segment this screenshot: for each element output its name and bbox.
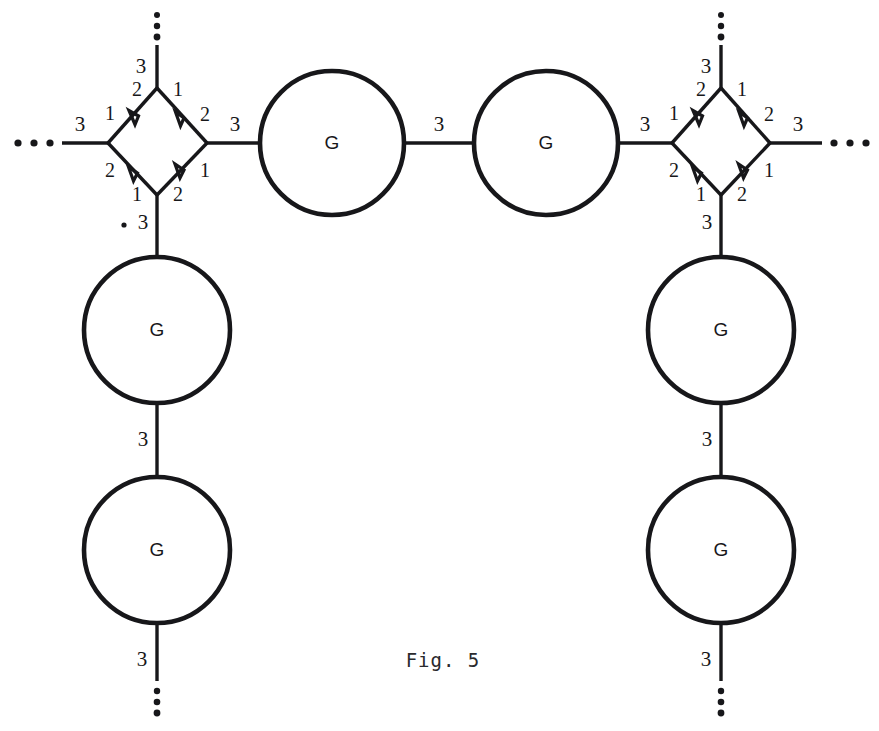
ellipsis-right	[830, 139, 869, 146]
diamond-right-arrow-sw	[693, 167, 702, 181]
circle-right-lower-label: G	[714, 539, 729, 560]
diamond-right-label-ne-east: 2	[764, 103, 774, 125]
figure-caption: Fig. 5	[406, 649, 481, 671]
edge-left-dia-up-label: 3	[136, 54, 147, 78]
diamond-right-label-se-south: 2	[737, 183, 747, 205]
ellipsis-top-left	[154, 12, 161, 40]
edge-right-dia-up-label: 3	[701, 54, 712, 78]
circle-left-lower: G	[84, 477, 230, 623]
ellipsis-bottom-right	[718, 688, 725, 717]
edge-top-mid-left-label: 3	[230, 112, 241, 136]
diamond-left-label-se-east: 1	[200, 159, 210, 181]
edge-far-right-label: 3	[793, 112, 804, 136]
circle-right-upper: G	[648, 257, 794, 403]
edge-right-dia-down-label: 3	[702, 210, 713, 234]
ellipsis-left	[14, 139, 53, 146]
diamond-left-label-ne-east: 2	[200, 103, 210, 125]
edge-top-mid-right-label: 3	[640, 112, 651, 136]
diamond-right-label-se-east: 1	[764, 159, 774, 181]
diamond-left-arrow-sw	[129, 167, 138, 181]
circle-top-1: G	[260, 71, 404, 215]
graph-diagram: 3 3 3 3 3 G G	[0, 0, 879, 731]
edge-top-mid-center-label: 3	[434, 112, 445, 136]
diamond-left-label-sw-west: 2	[105, 159, 115, 181]
diamond-left-label-sw-south: 1	[132, 183, 142, 205]
circle-right-upper-label: G	[714, 319, 729, 340]
diamond-right-label-nw-north: 2	[696, 78, 706, 100]
diamond-left-label-nw-north: 2	[132, 78, 142, 100]
circle-left-lower-label: G	[150, 539, 165, 560]
edge-far-left-label: 3	[75, 112, 86, 136]
diamond-right-label-nw-west: 1	[669, 102, 679, 124]
figure-container: 3 3 3 3 3 G G	[0, 0, 879, 731]
diamond-left: 1 2 1 2 2 1 2 1	[105, 78, 210, 205]
edge-right-col-mid-label: 3	[702, 427, 713, 451]
stray-dot-left	[121, 222, 126, 227]
diamond-left-label-se-south: 2	[173, 183, 183, 205]
edge-right-col-tail-label: 3	[701, 647, 712, 671]
circle-top-1-label: G	[325, 132, 340, 153]
edge-left-col-tail-label: 3	[137, 647, 148, 671]
edge-left-dia-down-label: 3	[138, 210, 149, 234]
circle-left-upper: G	[84, 257, 230, 403]
edge-left-col-mid-label: 3	[138, 427, 149, 451]
ellipsis-top-right	[718, 12, 725, 40]
circle-top-2-label: G	[539, 132, 554, 153]
diamond-right-label-sw-south: 1	[696, 183, 706, 205]
circle-left-upper-label: G	[150, 319, 165, 340]
diamond-left-label-nw-west: 1	[105, 102, 115, 124]
diamond-right-label-ne-north: 1	[737, 78, 747, 100]
ellipsis-bottom-left	[154, 688, 161, 717]
diamond-right-label-sw-west: 2	[669, 159, 679, 181]
diamond-left-label-ne-north: 1	[173, 78, 183, 100]
circle-right-lower: G	[648, 477, 794, 623]
circle-top-2: G	[474, 71, 618, 215]
diamond-right: 1 2 1 2 2 1 2 1	[669, 78, 774, 205]
